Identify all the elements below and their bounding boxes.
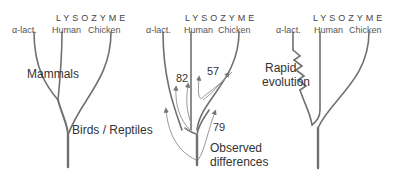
- difference-82: 82: [176, 73, 188, 84]
- birds-reptiles-label: Birds / Reptiles: [72, 124, 153, 136]
- panel-2-taxon-alpha-lact: α-lact.: [146, 26, 171, 35]
- branch-alpha-lact: [34, 32, 58, 100]
- observed-label-line1: Observed: [210, 142, 262, 154]
- panel-1-taxon-chicken: Chicken: [88, 26, 121, 35]
- branch-chicken: [197, 32, 239, 130]
- branch-human: [58, 32, 62, 100]
- panel-1-taxon-alpha-lact: α-lact.: [12, 26, 37, 35]
- panel-2-taxon-chicken: Chicken: [218, 26, 251, 35]
- difference-57: 57: [207, 66, 219, 77]
- tree-panel-1: [34, 32, 111, 167]
- tree-panel-3: [293, 32, 369, 168]
- panel-1-taxon-human: Human: [52, 26, 81, 35]
- panel-2-taxon-human: Human: [184, 26, 213, 35]
- observed-label-line2: differences: [210, 156, 268, 168]
- panel-3-taxon-human: Human: [314, 26, 343, 35]
- branch-human: [312, 32, 320, 125]
- panel-2-header: LYSOZYME: [185, 14, 257, 23]
- trunk-upper: [191, 110, 198, 122]
- panel-3-taxon-alpha-lact: α-lact.: [276, 26, 301, 35]
- branch-chicken: [68, 32, 111, 135]
- branch-mammal-stem: [58, 100, 68, 135]
- branch-alpha-lact-lower: [300, 90, 312, 125]
- panel-3-header: LYSOZYME: [313, 14, 385, 23]
- panel-3-taxon-chicken: Chicken: [349, 26, 382, 35]
- rapid-label-line2: evolution: [262, 76, 310, 88]
- panel-1-header: LYSOZYME: [56, 14, 128, 23]
- difference-79: 79: [213, 122, 225, 133]
- mammals-label: Mammals: [27, 68, 79, 80]
- rapid-label-line1: Rapid: [265, 62, 296, 74]
- branch-chicken: [318, 32, 369, 128]
